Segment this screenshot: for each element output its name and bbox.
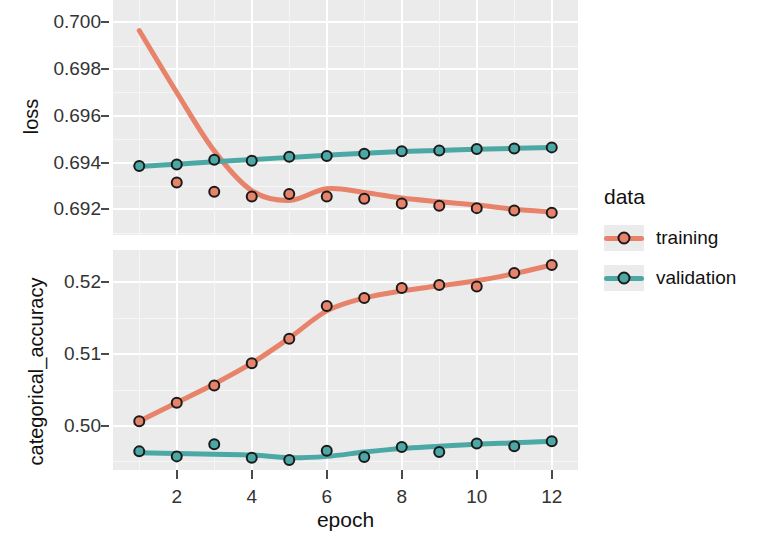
panel-categorical-accuracy <box>113 250 578 470</box>
y-tick-mark <box>101 162 109 164</box>
data-point-validation <box>397 442 407 452</box>
x-tick-label: 6 <box>321 486 332 508</box>
x-axis-title: epoch <box>113 508 578 532</box>
legend-title: data <box>604 185 736 209</box>
data-point-training <box>509 268 519 278</box>
legend-item-training[interactable]: training <box>604 225 736 251</box>
x-tick-mark <box>401 470 403 479</box>
x-tick-mark <box>326 470 328 479</box>
data-point-validation <box>322 151 332 161</box>
data-point-validation <box>472 438 482 448</box>
y-tick-label: 0.694 <box>5 153 101 172</box>
data-point-validation <box>434 447 444 457</box>
data-point-validation <box>209 439 219 449</box>
data-point-validation <box>284 455 294 465</box>
data-point-validation <box>209 155 219 165</box>
data-point-validation <box>434 145 444 155</box>
x-tick-label: 10 <box>466 486 487 508</box>
data-point-validation <box>547 436 557 446</box>
data-point-validation <box>472 144 482 154</box>
x-tick-label: 12 <box>541 486 562 508</box>
legend-label-training: training <box>656 227 718 249</box>
data-point-validation <box>359 149 369 159</box>
data-point-validation <box>509 441 519 451</box>
y-tick-label: 0.50 <box>5 416 101 435</box>
data-point-training <box>247 191 257 201</box>
y-tick-label: 0.696 <box>5 106 101 125</box>
data-point-validation <box>247 453 257 463</box>
data-point-training <box>322 191 332 201</box>
panel-loss <box>113 0 578 235</box>
y-tick-mark <box>101 21 109 23</box>
series-layer <box>113 0 578 235</box>
data-point-training <box>134 416 144 426</box>
data-point-training <box>322 301 332 311</box>
data-point-validation <box>397 146 407 156</box>
data-point-validation <box>134 161 144 171</box>
legend-key-validation <box>604 265 644 291</box>
legend-point-training <box>618 232 631 245</box>
y-tick-label: 0.51 <box>5 344 101 363</box>
data-point-training <box>284 334 294 344</box>
data-point-training <box>359 293 369 303</box>
x-tick-label: 8 <box>396 486 407 508</box>
y-tick-label: 0.698 <box>5 59 101 78</box>
data-point-training <box>434 201 444 211</box>
data-point-training <box>472 203 482 213</box>
data-point-validation <box>284 152 294 162</box>
data-point-training <box>172 177 182 187</box>
data-point-validation <box>172 451 182 461</box>
x-tick-mark <box>551 470 553 479</box>
y-tick-label: 0.52 <box>5 272 101 291</box>
data-point-validation <box>547 142 557 152</box>
legend-key-training <box>604 225 644 251</box>
y-tick-mark <box>101 353 109 355</box>
data-point-validation <box>172 159 182 169</box>
data-point-training <box>472 282 482 292</box>
y-tick-mark <box>101 281 109 283</box>
data-point-training <box>509 205 519 215</box>
series-line-validation <box>139 147 552 166</box>
x-tick-mark <box>476 470 478 479</box>
x-tick-mark <box>251 470 253 479</box>
chart-figure: loss categorical_accuracy epoch 0.7000.6… <box>0 0 763 545</box>
data-point-validation <box>359 452 369 462</box>
data-point-validation <box>134 446 144 456</box>
data-point-validation <box>322 446 332 456</box>
data-point-training <box>209 187 219 197</box>
series-layer <box>113 250 578 470</box>
y-tick-mark <box>101 425 109 427</box>
series-line-training <box>139 31 552 213</box>
data-point-training <box>209 380 219 390</box>
legend-label-validation: validation <box>656 267 736 289</box>
legend: data training validation <box>604 185 736 305</box>
series-line-training <box>139 265 552 421</box>
data-point-training <box>172 398 182 408</box>
data-point-training <box>434 280 444 290</box>
series-line-validation <box>139 441 552 458</box>
data-point-validation <box>247 156 257 166</box>
data-point-validation <box>509 144 519 154</box>
legend-item-validation[interactable]: validation <box>604 265 736 291</box>
data-point-training <box>247 358 257 368</box>
x-tick-label: 4 <box>246 486 257 508</box>
data-point-training <box>397 198 407 208</box>
y-tick-label: 0.692 <box>5 199 101 218</box>
axis-ticks: 0.7000.6980.6960.6940.6920.520.510.50 <box>0 0 101 545</box>
data-point-training <box>359 194 369 204</box>
data-point-training <box>547 260 557 270</box>
x-tick-mark <box>176 470 178 479</box>
data-point-training <box>284 189 294 199</box>
data-point-training <box>547 208 557 218</box>
y-tick-mark <box>101 68 109 70</box>
y-tick-mark <box>101 115 109 117</box>
y-tick-label: 0.700 <box>5 12 101 31</box>
data-point-training <box>397 283 407 293</box>
legend-point-validation <box>618 272 631 285</box>
y-tick-mark <box>101 208 109 210</box>
x-tick-label: 2 <box>171 486 182 508</box>
